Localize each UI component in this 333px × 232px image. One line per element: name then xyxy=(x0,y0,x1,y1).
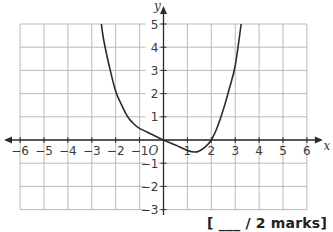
origin-label: O xyxy=(149,144,159,158)
x-tick-label: −5 xyxy=(35,144,53,158)
x-axis-label: x xyxy=(324,139,331,153)
x-tick-label: −4 xyxy=(59,144,77,158)
x-tick-label: 3 xyxy=(231,144,239,158)
x-tick-label: 6 xyxy=(303,144,311,158)
y-tick-label: 3 xyxy=(151,64,159,78)
x-tick-label: −2 xyxy=(107,144,125,158)
y-tick-label: −1 xyxy=(141,157,159,171)
x-tick-label: 5 xyxy=(279,144,287,158)
y-tick-label: −2 xyxy=(141,180,159,194)
y-tick-label: 2 xyxy=(151,87,159,101)
axes xyxy=(4,6,323,215)
graph: −6−5−4−3−2−1123456−3−2−112345Oxy xyxy=(0,0,333,215)
y-tick-label: 5 xyxy=(151,18,159,32)
y-tick-label: 1 xyxy=(151,110,159,124)
x-tick-label: −6 xyxy=(11,144,29,158)
function-curve xyxy=(101,24,241,152)
x-tick-label: 4 xyxy=(255,144,263,158)
x-tick-label: −3 xyxy=(83,144,101,158)
marks-label: [ ___ / 2 marks] xyxy=(207,215,327,231)
x-tick-label: 2 xyxy=(207,144,215,158)
y-tick-label: 4 xyxy=(151,41,159,55)
y-tick-label: −3 xyxy=(141,203,159,215)
y-axis-label: y xyxy=(153,0,161,13)
